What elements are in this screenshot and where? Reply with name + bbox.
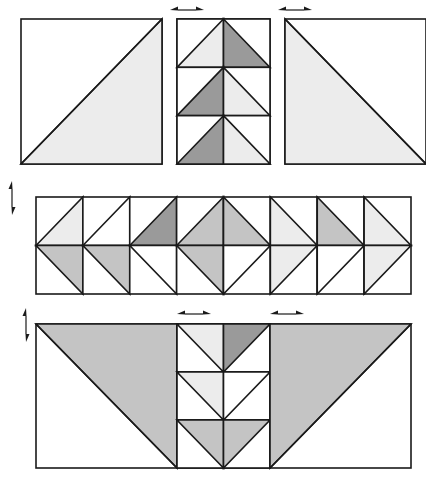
- hst-square-top: [364, 197, 411, 246]
- press-arrow-bottom-left-icon: [177, 311, 211, 315]
- hst-square-bottom: [83, 246, 130, 295]
- hst-square-top: [130, 197, 177, 246]
- top-right-half-square: [285, 19, 426, 164]
- press-arrow-top-left-icon: [170, 7, 204, 11]
- top-center-flying-geese-column: [177, 19, 270, 164]
- bottom-left-half-square: [36, 324, 177, 468]
- bottom-center-flying-geese-column: [177, 324, 270, 468]
- hst-square-bottom: [36, 246, 83, 295]
- hst-square-top: [36, 197, 83, 246]
- middle-row: [36, 197, 411, 294]
- hst-square-bottom: [364, 246, 411, 295]
- top-left-half-square: [21, 19, 162, 164]
- flying-geese-unit: [177, 372, 270, 420]
- hst-square-top: [270, 197, 317, 246]
- press-arrow-top-right-icon: [278, 7, 312, 11]
- bottom-right-half-square: [270, 324, 411, 468]
- hst-square-top: [177, 197, 224, 246]
- hst-square-bottom: [270, 246, 317, 295]
- hst-square-bottom: [317, 246, 364, 295]
- flying-geese-unit: [177, 324, 270, 372]
- press-arrow-side-upper-icon: [9, 181, 16, 215]
- hst-square-top: [317, 197, 364, 246]
- press-arrow-side-lower-icon: [23, 308, 30, 342]
- press-arrow-bottom-right-icon: [270, 311, 304, 315]
- hst-square-bottom: [224, 246, 271, 295]
- quilt-block-assembly-diagram: [0, 0, 426, 492]
- flying-geese-unit: [177, 67, 270, 115]
- hst-square-bottom: [130, 246, 177, 295]
- flying-geese-unit: [177, 116, 270, 164]
- flying-geese-unit: [177, 420, 270, 468]
- hst-square-bottom: [177, 246, 224, 295]
- hst-square-top: [83, 197, 130, 246]
- flying-geese-unit: [177, 19, 270, 67]
- hst-square-top: [224, 197, 271, 246]
